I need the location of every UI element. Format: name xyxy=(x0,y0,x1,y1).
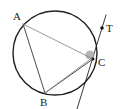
chord-a-to-b xyxy=(23,24,45,93)
point-marker-c xyxy=(92,58,95,61)
geometry-canvas: A B C T xyxy=(0,0,120,109)
vertex-label-b: B xyxy=(40,96,47,108)
chord-b-to-c-secondary xyxy=(45,57,93,93)
vertex-label-c: C xyxy=(98,56,105,68)
circle-outline xyxy=(13,11,97,95)
geometry-figure: A B C T xyxy=(0,0,120,109)
point-marker-t xyxy=(100,26,104,30)
vertex-label-t: T xyxy=(106,22,113,34)
chord-a-to-c xyxy=(23,24,93,59)
vertex-label-a: A xyxy=(13,10,21,22)
